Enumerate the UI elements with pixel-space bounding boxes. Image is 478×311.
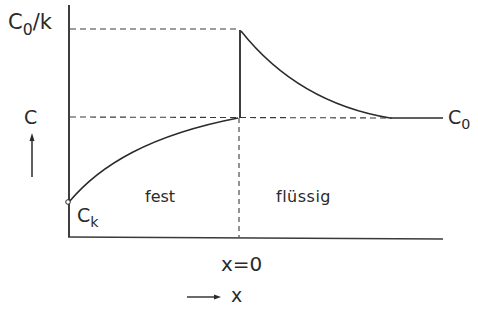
y-axis-label: C (24, 108, 37, 127)
label-ck-main: C (77, 204, 90, 226)
label-c0-over-k-main: C (8, 10, 23, 34)
label-c0-over-k-sub: 0 (23, 20, 33, 39)
label-ck-sub: k (90, 214, 98, 230)
region-label-solid: fest (145, 189, 175, 205)
label-c0-over-k: C0/k (8, 12, 52, 33)
dashed-line-c0 (70, 117, 392, 118)
label-c0-right: C0 (448, 108, 470, 127)
x-direction-arrowhead-icon (214, 295, 221, 300)
label-c0-right-main: C (448, 106, 461, 128)
interface-label: x=0 (221, 254, 262, 274)
label-c0-right-sub: 0 (461, 116, 470, 132)
x-axis-label: x (231, 286, 242, 305)
liquid-concentration-curve (241, 31, 390, 118)
ck-point-marker (66, 200, 71, 205)
label-ck: Ck (77, 206, 99, 225)
region-label-liquid: flüssig (276, 189, 331, 205)
y-direction-arrowhead-icon (30, 133, 35, 141)
label-c0-over-k-suffix: /k (33, 10, 52, 34)
x-axis (68, 237, 443, 239)
